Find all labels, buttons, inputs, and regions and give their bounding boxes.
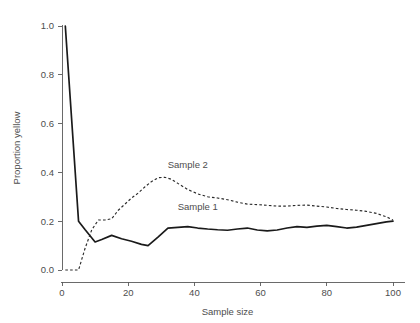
y-axis-title: Proportion yellow [11, 111, 22, 184]
x-tick-label: 60 [255, 287, 266, 298]
x-tick-label: 40 [189, 287, 200, 298]
series-annotations: Sample 2Sample 1 [168, 159, 218, 213]
series-label-sample-1: Sample 1 [178, 201, 218, 212]
series-line-sample-1 [65, 26, 393, 246]
series-line-sample-2 [65, 177, 393, 270]
x-tick-label: 100 [385, 287, 401, 298]
axes-group: 0.00.20.40.60.81.0 020406080100 [41, 20, 405, 298]
line-chart: 0.00.20.40.60.81.0 020406080100 Sample 2… [0, 0, 420, 323]
chart-figure: 0.00.20.40.60.81.0 020406080100 Sample 2… [0, 0, 420, 323]
y-tick-label: 0.8 [41, 69, 54, 80]
y-tick-label: 0.4 [41, 167, 54, 178]
y-tick-label: 0.6 [41, 118, 54, 129]
x-tick-label: 0 [59, 287, 64, 298]
x-tick-label: 80 [322, 287, 333, 298]
series-group [65, 26, 393, 270]
x-tick-label: 20 [123, 287, 134, 298]
y-tick-label: 0.0 [41, 264, 54, 275]
y-axis-ticks: 0.00.20.40.60.81.0 [41, 20, 62, 275]
series-label-sample-2: Sample 2 [168, 159, 208, 170]
y-tick-label: 1.0 [41, 20, 54, 31]
x-axis-ticks: 020406080100 [59, 282, 401, 298]
x-axis-title: Sample size [202, 306, 254, 317]
y-tick-label: 0.2 [41, 216, 54, 227]
